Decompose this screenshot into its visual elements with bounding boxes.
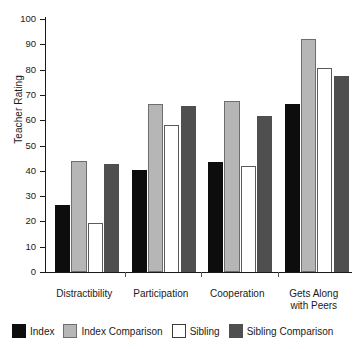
legend-item: Sibling Comparison xyxy=(229,324,334,338)
category-label-line: with Peers xyxy=(270,300,359,312)
y-tick-label: 50 xyxy=(0,141,36,151)
bar xyxy=(208,162,223,272)
category-label: Distractibility xyxy=(40,288,129,300)
y-tick-mark xyxy=(40,70,45,71)
white-swatch xyxy=(172,324,186,338)
bar-group xyxy=(285,19,349,272)
light-gray-swatch xyxy=(63,324,77,338)
y-tick-label: 10 xyxy=(0,242,36,252)
y-tick-mark xyxy=(40,272,45,273)
y-tick-label: 70 xyxy=(0,90,36,100)
bar xyxy=(88,223,103,272)
y-tick-label: 100 xyxy=(0,14,36,24)
y-tick-mark xyxy=(40,146,45,147)
y-tick-mark xyxy=(40,247,45,248)
bar xyxy=(148,104,163,272)
category-label-line: Participation xyxy=(117,288,206,300)
bar xyxy=(104,164,119,272)
legend-label: Index Comparison xyxy=(81,326,162,337)
y-tick-label: 20 xyxy=(0,216,36,226)
legend-item: Index xyxy=(12,324,54,338)
dark-gray-swatch xyxy=(229,324,243,338)
x-group-tick xyxy=(201,272,202,277)
bar xyxy=(164,125,179,272)
bar xyxy=(334,76,349,272)
chart-legend: IndexIndex ComparisonSiblingSibling Comp… xyxy=(12,324,342,338)
category-label-line: Gets Along xyxy=(270,288,359,300)
legend-label: Sibling xyxy=(190,326,220,337)
bar-group xyxy=(208,19,272,272)
legend-label: Index xyxy=(30,326,54,337)
bar xyxy=(257,116,272,272)
bar xyxy=(241,166,256,272)
category-label: Cooperation xyxy=(193,288,282,300)
legend-item: Index Comparison xyxy=(63,324,162,338)
y-tick-label: 90 xyxy=(0,39,36,49)
y-tick-label: 30 xyxy=(0,191,36,201)
y-tick-label: 40 xyxy=(0,166,36,176)
bar xyxy=(55,205,70,272)
bar xyxy=(181,106,196,272)
bar xyxy=(317,68,332,272)
bar-chart: Teacher Rating 0102030405060708090100 Di… xyxy=(0,0,364,349)
bar xyxy=(224,101,239,272)
bar xyxy=(285,104,300,272)
legend-label: Sibling Comparison xyxy=(247,326,334,337)
bar xyxy=(132,170,147,272)
y-tick-mark xyxy=(40,19,45,20)
x-group-tick xyxy=(125,272,126,277)
plot-area xyxy=(46,19,352,272)
y-tick-mark xyxy=(40,171,45,172)
bar xyxy=(71,161,86,272)
legend-item: Sibling xyxy=(172,324,220,338)
y-tick-label: 0 xyxy=(0,267,36,277)
y-tick-mark xyxy=(40,44,45,45)
black-swatch xyxy=(12,324,26,338)
category-label-line: Cooperation xyxy=(193,288,282,300)
x-group-tick xyxy=(278,272,279,277)
y-tick-mark xyxy=(40,95,45,96)
y-tick-label: 80 xyxy=(0,65,36,75)
bar-group xyxy=(55,19,119,272)
category-label: Gets Alongwith Peers xyxy=(270,288,359,312)
bar xyxy=(301,39,316,272)
category-label: Participation xyxy=(117,288,206,300)
bar-group xyxy=(132,19,196,272)
y-tick-mark xyxy=(40,196,45,197)
y-tick-mark xyxy=(40,221,45,222)
y-tick-label: 60 xyxy=(0,115,36,125)
y-tick-mark xyxy=(40,120,45,121)
category-label-line: Distractibility xyxy=(40,288,129,300)
